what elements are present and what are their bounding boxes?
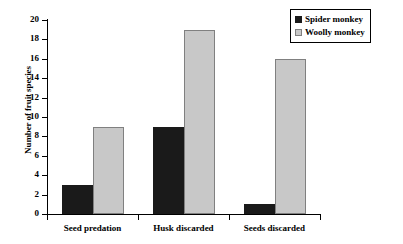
bar-spider-monkey-husk-discarded [153, 127, 184, 214]
y-axis-tick-label: 12 [0, 93, 39, 102]
x-axis-tick [320, 215, 321, 220]
y-axis-tick-label: 16 [0, 54, 39, 63]
x-axis-label-seed-predation: Seed predation [47, 223, 138, 233]
y-axis-tick-label: 8 [0, 131, 39, 140]
y-axis-tick-label: 4 [0, 170, 39, 179]
y-axis-tick-label: 6 [0, 151, 39, 160]
x-axis-tick [47, 215, 48, 220]
legend-label-spider-monkey: Spider monkey [305, 15, 363, 24]
y-axis-tick-label: 18 [0, 34, 39, 43]
bar-woolly-monkey-husk-discarded [184, 30, 215, 214]
bar-spider-monkey-seed-predation [62, 185, 93, 214]
x-axis-tick [138, 215, 139, 220]
x-axis-line [47, 214, 321, 215]
legend-item-woolly-monkey: Woolly monkey [295, 26, 365, 39]
y-axis-tick-label: 14 [0, 73, 39, 82]
bar-woolly-monkey-seed-predation [93, 127, 124, 214]
legend-swatch-spider-monkey [295, 16, 302, 23]
y-axis-tick-label: 2 [0, 190, 39, 199]
legend-label-woolly-monkey: Woolly monkey [305, 28, 365, 37]
x-axis-tick [229, 215, 230, 220]
y-axis-tick-label: 20 [0, 15, 39, 24]
bar-woolly-monkey-seeds-discarded [275, 59, 306, 214]
x-axis-label-husk-discarded: Husk discarded [138, 223, 229, 233]
bar-chart: Number of fruit species 0246810121416182… [0, 0, 403, 244]
plot-area [47, 20, 320, 214]
legend-swatch-woolly-monkey [295, 29, 302, 36]
y-axis-tick-label: 10 [0, 112, 39, 121]
y-axis-tick-label: 0 [0, 209, 39, 218]
x-axis-label-seeds-discarded: Seeds discarded [229, 223, 320, 233]
bar-spider-monkey-seeds-discarded [244, 204, 275, 214]
chart-legend: Spider monkey Woolly monkey [290, 9, 371, 43]
legend-item-spider-monkey: Spider monkey [295, 13, 365, 26]
